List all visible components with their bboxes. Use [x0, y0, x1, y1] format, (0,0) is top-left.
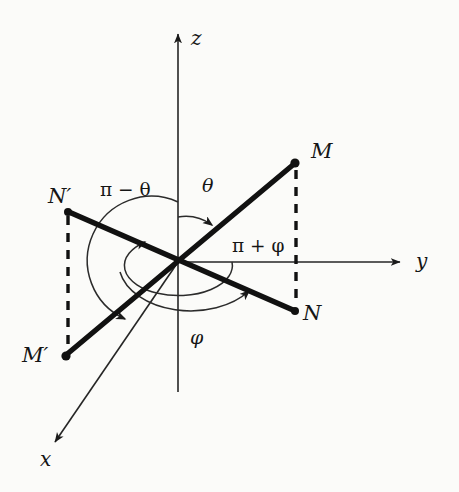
point-dot-N [291, 307, 299, 315]
axis-label-z: z [190, 26, 202, 50]
axis-group [55, 34, 400, 442]
spherical-coordinates-figure: z y x M N N′ M′ θ π − θ φ π + φ [0, 0, 459, 492]
angle-label-theta: θ [202, 174, 214, 196]
axis-label-y: y [415, 249, 428, 273]
angle-label-pi-minus-theta: π − θ [100, 179, 151, 200]
point-label-M: M [310, 139, 333, 163]
angle-label-pi-plus-phi: π + φ [232, 235, 284, 256]
point-dot-N-prime [64, 208, 72, 216]
axis-label-x: x [40, 447, 51, 471]
point-dot-M-prime [61, 351, 70, 360]
point-dot-M [290, 158, 299, 167]
angle-label-phi: φ [190, 326, 204, 348]
point-label-M-prime: M′ [21, 343, 49, 367]
point-label-N-prime: N′ [47, 184, 71, 208]
point-label-N: N [302, 301, 322, 325]
figure-canvas: z y x M N N′ M′ θ π − θ φ π + φ [0, 0, 459, 492]
theta-arc [178, 216, 212, 225]
